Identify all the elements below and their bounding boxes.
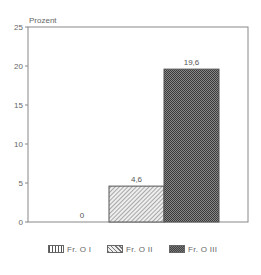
y-tick-label: 15 <box>14 101 23 110</box>
y-tick-label: 25 <box>14 23 23 32</box>
crosshatch-pattern-icon <box>169 245 185 253</box>
bar <box>164 69 219 222</box>
legend: Fr. O I Fr. O II Fr. O III <box>0 243 261 257</box>
bar-chart: Prozent 0510152025 04,619,6 <box>0 0 261 275</box>
legend-label: Fr. O II <box>126 245 153 254</box>
vertical-lines-pattern-icon <box>48 245 64 253</box>
bars: 04,619,6 <box>80 58 219 222</box>
bar-value-label: 0 <box>80 211 85 220</box>
bar-value-label: 19,6 <box>184 58 200 67</box>
legend-label: Fr. O III <box>188 245 217 254</box>
y-axis-label: Prozent <box>29 16 57 25</box>
bar-value-label: 4,6 <box>131 175 143 184</box>
y-tick-label: 5 <box>19 179 24 188</box>
y-tick-label: 0 <box>19 218 24 227</box>
diagonal-hatch-pattern-icon <box>107 245 123 253</box>
legend-item-fr-o-i: Fr. O I <box>48 243 91 255</box>
y-axis-ticks: 0510152025 <box>14 23 28 227</box>
y-tick-label: 10 <box>14 140 23 149</box>
y-tick-label: 20 <box>14 62 23 71</box>
legend-label: Fr. O I <box>67 245 91 254</box>
legend-item-fr-o-iii: Fr. O III <box>169 243 217 255</box>
bar <box>109 186 164 222</box>
legend-item-fr-o-ii: Fr. O II <box>107 243 153 255</box>
